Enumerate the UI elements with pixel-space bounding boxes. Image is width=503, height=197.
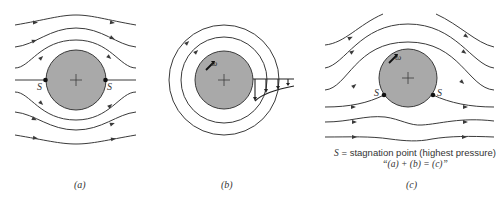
stagnation-label: S [374,87,379,98]
stagnation-label: S [107,81,112,92]
omega-label: ω [395,52,401,62]
panel-label-b: (b) [221,179,233,190]
stagnation-point [382,93,387,98]
streamline [325,136,494,140]
omega-label: ω [211,58,217,68]
panel-label-c: (c) [406,179,417,190]
panel-label-a: (a) [74,179,86,190]
legend-definition: S = stagnation point (highest pressure) [330,147,500,158]
streamline [325,117,494,125]
streamline [436,14,494,47]
streamline [325,14,383,45]
stagnation-label: S [37,81,42,92]
stagnation-point [43,78,48,83]
streamline [15,28,136,47]
velocity-profile [253,79,294,101]
stagnation-label: S [437,87,442,98]
stagnation-point [431,93,436,98]
legend-text: = stagnation point (highest pressure) [339,147,496,158]
streamline [433,95,494,107]
circulation-arrows [184,39,199,54]
legend-equation: “(a) + (b) = (c)” [330,159,500,169]
streamline [15,112,136,130]
